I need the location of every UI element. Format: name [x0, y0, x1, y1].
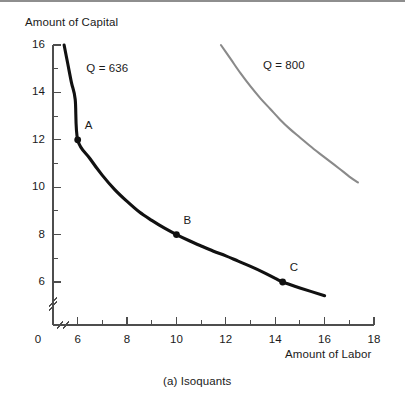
x-tick-label-18: 18: [368, 333, 381, 345]
y-tick-label-6: 6: [39, 275, 46, 287]
data-point-B: [173, 231, 180, 238]
data-point-C: [279, 279, 286, 286]
plot-area: [0, 0, 405, 415]
markers-group: [74, 136, 286, 285]
y-tick-label-8: 8: [39, 228, 46, 240]
data-point-A: [74, 136, 81, 143]
x-tick-label-12: 12: [219, 333, 232, 345]
y-tick-label-16: 16: [32, 38, 45, 50]
x-tick-label-16: 16: [318, 333, 331, 345]
isoquant-curve-0: [64, 45, 325, 296]
x-tick-label-8: 8: [124, 333, 131, 345]
x-tick-label-0: 0: [35, 333, 42, 345]
isoquants-figure: Amount of Capital Amount of Labor (a) Is…: [0, 0, 405, 415]
x-tick-label-14: 14: [269, 333, 282, 345]
y-tick-label-10: 10: [32, 180, 45, 192]
curve-label-0: Q = 636: [86, 62, 128, 74]
data-point-label-B: B: [183, 214, 191, 226]
data-point-label-C: C: [290, 261, 298, 273]
axes-group: [49, 45, 374, 329]
curve-label-1: Q = 800: [263, 59, 305, 71]
y-tick-label-12: 12: [32, 133, 45, 145]
x-tick-label-6: 6: [74, 333, 81, 345]
x-tick-label-10: 10: [170, 333, 183, 345]
y-tick-label-14: 14: [32, 85, 45, 97]
data-point-label-A: A: [85, 119, 93, 131]
curves-group: [64, 45, 358, 296]
